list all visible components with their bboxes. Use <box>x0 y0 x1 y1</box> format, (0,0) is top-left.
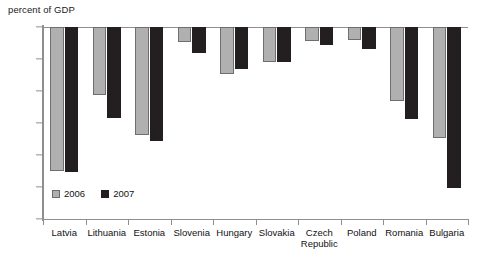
x-axis-label-line: Poland <box>347 227 377 238</box>
bar-slovakia-2006 <box>263 27 277 62</box>
x-axis-label-line: Slovenia <box>174 227 210 238</box>
x-axis-tick-mark <box>43 219 44 225</box>
x-axis-tick-mark <box>128 219 129 225</box>
legend-item-2007: 2007 <box>101 188 134 199</box>
x-axis-label-line: Estonia <box>133 227 165 238</box>
bar-estonia-2007 <box>150 27 164 141</box>
x-axis-label-latvia: Latvia <box>52 227 77 238</box>
x-axis-label-slovenia: Slovenia <box>174 227 210 238</box>
x-axis-tick-mark <box>256 219 257 225</box>
x-axis-tick-mark <box>383 219 384 225</box>
x-axis-tick-mark <box>426 219 427 225</box>
x-axis-label-line: Latvia <box>52 227 77 238</box>
chart-container: percent of GDP 0–5–10–15–20–25–30 Latvia… <box>0 0 480 258</box>
bar-hungary-2006 <box>220 27 234 74</box>
legend-label-2006: 2006 <box>64 188 85 199</box>
x-axis-label-line: Hungary <box>216 227 252 238</box>
x-axis-tick-mark <box>468 219 469 225</box>
y-axis-tick-mark <box>36 26 42 27</box>
bar-romania-2006 <box>390 27 404 101</box>
x-axis-label-slovakia: Slovakia <box>259 227 295 238</box>
bar-poland-2006 <box>348 27 362 40</box>
x-axis-tick-mark <box>213 219 214 225</box>
x-axis-label-line: Slovakia <box>259 227 295 238</box>
bar-lithuania-2006 <box>93 27 107 95</box>
bar-bulgaria-2006 <box>433 27 447 138</box>
bar-slovenia-2007 <box>192 27 206 53</box>
x-axis-label-hungary: Hungary <box>216 227 252 238</box>
x-axis-tick-mark <box>298 219 299 225</box>
x-axis-label-estonia: Estonia <box>133 227 165 238</box>
x-axis-label-line: Czech <box>306 227 333 238</box>
bar-lithuania-2007 <box>107 27 121 118</box>
bar-bulgaria-2007 <box>447 27 461 188</box>
y-axis-tick-mark <box>36 58 42 59</box>
x-axis-label-romania: Romania <box>385 227 423 238</box>
x-axis-label-lithuania: Lithuania <box>87 227 126 238</box>
legend-swatch-2007-icon <box>101 190 109 198</box>
bar-latvia-2007 <box>65 27 79 172</box>
y-axis-tick-mark <box>36 122 42 123</box>
chart-legend: 2006 2007 <box>52 188 134 199</box>
bar-hungary-2007 <box>235 27 249 69</box>
legend-item-2006: 2006 <box>52 188 85 199</box>
bar-czech-republic-2007 <box>320 27 334 45</box>
x-axis-label-bulgaria: Bulgaria <box>429 227 464 238</box>
y-axis-ticks: 0–5–10–15–20–25–30 <box>0 0 43 258</box>
x-axis-tick-mark <box>341 219 342 225</box>
legend-label-2007: 2007 <box>113 188 134 199</box>
x-axis-tick-mark <box>86 219 87 225</box>
x-axis-label-czech-republic: CzechRepublic <box>301 227 338 249</box>
bar-czech-republic-2006 <box>305 27 319 41</box>
x-axis-label-line: Romania <box>385 227 423 238</box>
bar-romania-2007 <box>405 27 419 119</box>
x-axis-label-line: Lithuania <box>87 227 126 238</box>
y-axis-tick-mark <box>36 90 42 91</box>
bar-latvia-2006 <box>50 27 64 171</box>
y-axis-tick-mark <box>36 218 42 219</box>
bar-poland-2007 <box>362 27 376 49</box>
y-axis-tick-mark <box>36 154 42 155</box>
x-axis-tick-mark <box>171 219 172 225</box>
bar-slovakia-2007 <box>277 27 291 62</box>
x-axis-label-line: Republic <box>301 238 338 249</box>
x-axis-label-poland: Poland <box>347 227 377 238</box>
bar-slovenia-2006 <box>178 27 192 42</box>
bar-estonia-2006 <box>135 27 149 135</box>
legend-swatch-2006-icon <box>52 190 60 198</box>
x-axis-label-line: Bulgaria <box>429 227 464 238</box>
y-axis-tick-mark <box>36 186 42 187</box>
